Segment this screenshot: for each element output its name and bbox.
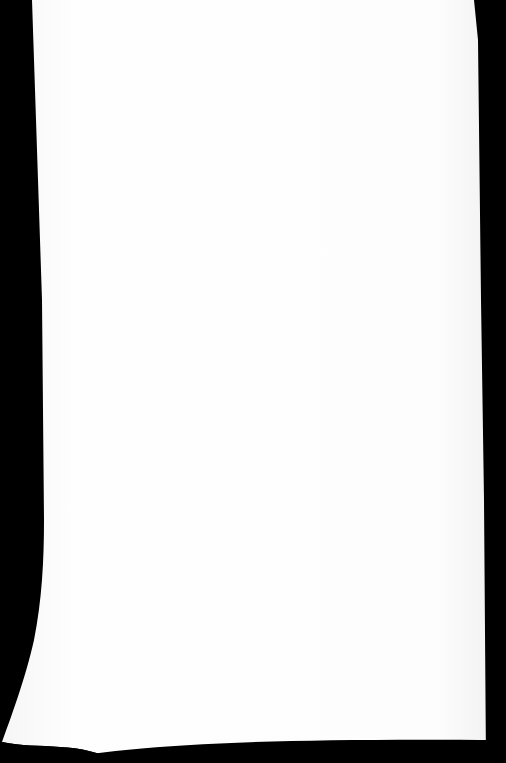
photo-scene: [0, 0, 506, 763]
paper-sheet: [2, 0, 486, 763]
paper-sheet-svg: [0, 0, 506, 763]
